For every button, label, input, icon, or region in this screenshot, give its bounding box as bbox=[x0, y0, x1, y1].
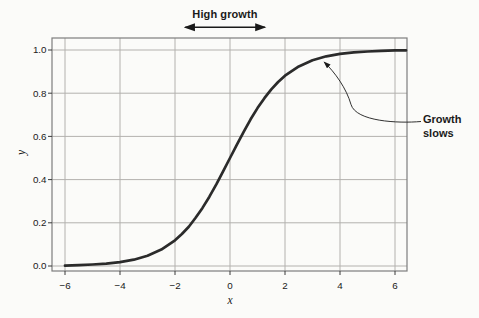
sigmoid-growth-figure: −6−4−202460.00.20.40.60.81.0 High growth… bbox=[0, 0, 479, 318]
y-tick-label: 0.0 bbox=[33, 260, 47, 271]
x-tick-label: 0 bbox=[227, 280, 233, 291]
x-tick-label: 4 bbox=[337, 280, 343, 291]
x-tick-label: −6 bbox=[59, 280, 71, 291]
x-tick-label: −4 bbox=[114, 280, 126, 291]
series-logistic-growth-curve bbox=[65, 50, 406, 265]
y-tick-label: 0.4 bbox=[33, 174, 47, 185]
high-growth-label: High growth bbox=[184, 8, 266, 20]
y-tick-label: 0.8 bbox=[33, 88, 47, 99]
x-tick-label: −2 bbox=[169, 280, 180, 291]
y-tick-label: 1.0 bbox=[33, 44, 47, 55]
growth-slows-label: Growth slows bbox=[423, 113, 467, 140]
chart-canvas: −6−4−202460.00.20.40.60.81.0 bbox=[0, 0, 479, 318]
x-tick-label: 2 bbox=[282, 280, 287, 291]
x-axis-label: x bbox=[222, 294, 238, 306]
y-tick-label: 0.6 bbox=[33, 131, 47, 142]
y-tick-label: 0.2 bbox=[33, 217, 47, 228]
x-tick-label: 6 bbox=[392, 280, 398, 291]
y-axis-label: y bbox=[15, 147, 28, 159]
